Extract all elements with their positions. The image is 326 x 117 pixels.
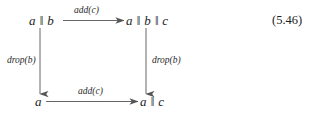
parallel-symbol: ‖ <box>154 13 159 28</box>
arrow-label-top: add(c) <box>74 6 99 16</box>
arrow-label-left: drop(b) <box>7 56 36 66</box>
equation-figure: a ‖ b a ‖ b ‖ c a a ‖ c add(c) add(c) dr… <box>0 0 326 117</box>
node-top-right: a ‖ b ‖ c <box>126 14 168 27</box>
parallel-symbol: ‖ <box>150 94 155 109</box>
arrow-label-bottom: add(c) <box>78 87 103 97</box>
node-bottom-right: a ‖ c <box>140 95 164 108</box>
equation-number: (5.46) <box>272 14 302 27</box>
arrow-label-right: drop(b) <box>152 56 181 66</box>
node-top-left: a ‖ b <box>29 14 54 27</box>
parallel-symbol: ‖ <box>136 13 141 28</box>
parallel-symbol: ‖ <box>39 13 44 28</box>
node-bottom-left: a <box>35 95 42 108</box>
